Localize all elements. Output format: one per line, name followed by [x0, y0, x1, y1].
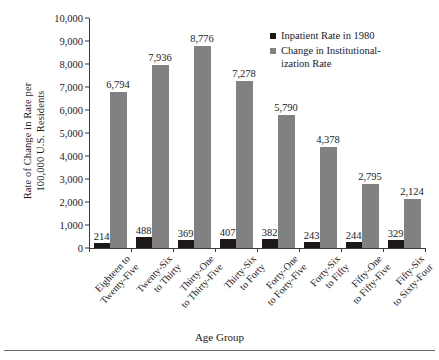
y-axis-tick-label: 9,000 — [59, 36, 89, 47]
legend-label: Inpatient Rate in 1980 — [281, 29, 375, 43]
y-axis-tick-label: 3,000 — [59, 174, 89, 185]
y-axis-tick-label: 8,000 — [59, 59, 89, 70]
x-axis-tick-mark — [383, 248, 384, 252]
bar-value-label: 4,378 — [316, 134, 340, 145]
bar: 4,378 — [320, 147, 337, 248]
bar: 244 — [346, 242, 362, 248]
bar: 7,936 — [152, 65, 169, 248]
y-axis-tick-label: 0 — [78, 243, 89, 254]
bar: 8,776 — [194, 46, 211, 248]
bar: 407 — [220, 239, 236, 248]
bar: 6,794 — [110, 92, 127, 248]
bar-group: 2146,794 — [89, 18, 131, 248]
bar-value-label: 369 — [178, 228, 194, 239]
bar-value-label: 244 — [346, 230, 362, 241]
bar-group: 3698,776 — [173, 18, 215, 248]
legend-item: Change in Institutional- ization Rate — [270, 44, 381, 71]
bar: 329 — [388, 240, 404, 248]
y-axis-tick-label: 7,000 — [59, 82, 89, 93]
x-axis-tick-mark — [173, 248, 174, 252]
x-axis-tick-mark — [131, 248, 132, 252]
y-axis-title: Rate of Change in Rate per 100,000 U.S. … — [21, 31, 47, 251]
legend-item: Inpatient Rate in 1980 — [270, 29, 381, 43]
bar-value-label: 7,278 — [232, 68, 256, 79]
y-axis-tick-label: 1,000 — [59, 220, 89, 231]
bar: 2,795 — [362, 184, 379, 248]
x-axis-tick-mark — [215, 248, 216, 252]
x-axis-tick-mark — [299, 248, 300, 252]
y-axis-tick-label: 4,000 — [59, 151, 89, 162]
bar-value-label: 488 — [136, 225, 152, 236]
bar: 382 — [262, 239, 278, 248]
bar: 488 — [136, 237, 152, 248]
bar-chart-figure: Rate of Change in Rate per 100,000 U.S. … — [0, 0, 439, 360]
y-axis-tick-label: 10,000 — [54, 13, 89, 24]
bar-value-label: 7,936 — [148, 52, 172, 63]
bar: 369 — [178, 240, 194, 248]
chart-legend: Inpatient Rate in 1980Change in Institut… — [270, 29, 381, 72]
bar-value-label: 329 — [388, 228, 404, 239]
bar-value-label: 6,794 — [106, 79, 130, 90]
bar: 214 — [94, 243, 110, 248]
bar-group: 4887,936 — [131, 18, 173, 248]
horizontal-rule — [4, 350, 435, 351]
y-axis-tick-label: 5,000 — [59, 128, 89, 139]
bar-value-label: 2,795 — [358, 171, 382, 182]
bar: 5,790 — [278, 115, 295, 248]
bar-value-label: 214 — [94, 231, 110, 242]
x-axis-tick-mark — [257, 248, 258, 252]
x-axis-tick-mark — [89, 248, 90, 252]
bar: 243 — [304, 242, 320, 248]
bar-value-label: 407 — [220, 227, 236, 238]
bar-group: 3292,124 — [383, 18, 425, 248]
legend-label: Change in Institutional- ization Rate — [281, 44, 381, 71]
x-axis-tick-mark — [425, 248, 426, 252]
bar-value-label: 8,776 — [190, 33, 214, 44]
bar-value-label: 382 — [262, 227, 278, 238]
bar-value-label: 243 — [304, 230, 320, 241]
bar: 7,278 — [236, 81, 253, 248]
legend-swatch-icon — [270, 33, 276, 39]
x-axis-tick-mark — [341, 248, 342, 252]
bar-value-label: 2,124 — [400, 186, 424, 197]
y-axis-tick-label: 6,000 — [59, 105, 89, 116]
y-axis-tick-label: 2,000 — [59, 197, 89, 208]
bar: 2,124 — [404, 199, 421, 248]
bar-value-label: 5,790 — [274, 102, 298, 113]
legend-swatch-icon — [270, 48, 276, 54]
bar-group: 4077,278 — [215, 18, 257, 248]
